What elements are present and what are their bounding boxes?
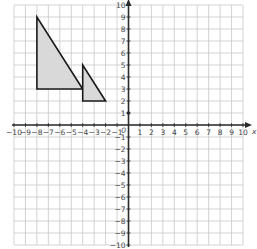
- x-tick-label: 6: [195, 128, 200, 137]
- x-tick-label: 9: [229, 128, 234, 137]
- x-tick-label: 4: [172, 128, 177, 137]
- y-tick-label: −3: [114, 157, 125, 166]
- x-axis-label: x: [251, 127, 257, 136]
- origin-label: 0: [121, 126, 126, 135]
- x-tick-label: 8: [218, 128, 223, 137]
- coordinate-plane: −10−9−8−7−6−5−4−3−2−11234567891010987654…: [0, 0, 257, 249]
- x-tick-label: −3: [89, 128, 100, 137]
- y-tick-label: −5: [114, 181, 125, 190]
- y-tick-label: 7: [121, 37, 126, 46]
- x-tick-label: 10: [238, 128, 248, 137]
- y-tick-label: −9: [114, 229, 125, 238]
- x-tick-label: −6: [54, 128, 65, 137]
- y-tick-label: 8: [121, 25, 126, 34]
- x-tick-label: 3: [160, 128, 165, 137]
- y-tick-label: 2: [121, 97, 126, 106]
- x-tick-label: −4: [77, 128, 88, 137]
- y-tick-label: −8: [114, 217, 125, 226]
- y-tick-label: 3: [121, 85, 126, 94]
- x-tick-label: 5: [183, 128, 188, 137]
- x-tick-label: −9: [20, 128, 31, 137]
- x-tick-label: −7: [43, 128, 54, 137]
- y-tick-label: 9: [121, 13, 126, 22]
- y-tick-label: 5: [121, 61, 126, 70]
- y-tick-label: −4: [114, 169, 125, 178]
- y-tick-label: −2: [114, 145, 125, 154]
- y-tick-label: 6: [121, 49, 126, 58]
- y-tick-label: 4: [121, 73, 126, 82]
- x-tick-label: −2: [100, 128, 111, 137]
- x-tick-label: 7: [206, 128, 211, 137]
- y-tick-label: −7: [114, 205, 125, 214]
- y-tick-label: −10: [110, 241, 126, 249]
- x-tick-label: 1: [138, 128, 143, 137]
- x-tick-label: 2: [149, 128, 154, 137]
- y-tick-label: 1: [121, 109, 126, 118]
- marker-point: [127, 111, 131, 115]
- x-tick-label: −8: [31, 128, 42, 137]
- x-tick-label: −5: [66, 128, 77, 137]
- y-tick-label: −6: [114, 193, 125, 202]
- y-tick-label: 10: [116, 1, 126, 10]
